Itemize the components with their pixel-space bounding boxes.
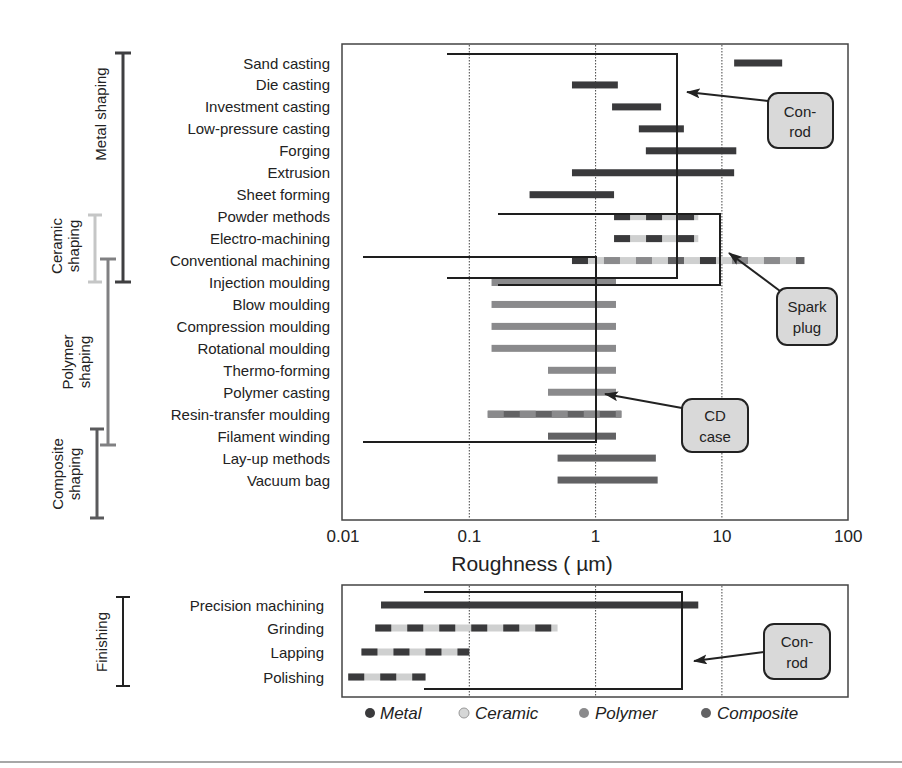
range-bar-segment — [584, 411, 600, 418]
category-label: Thermo-forming — [223, 362, 330, 379]
range-bar-segment — [439, 625, 455, 632]
range-bar-segment — [552, 411, 568, 418]
range-bar — [612, 103, 661, 110]
callout-spark-line2: plug — [793, 319, 821, 336]
category-label: Polishing — [263, 669, 324, 686]
range-bar-segment — [457, 649, 469, 656]
group-bracket-metal: Metal shaping — [92, 53, 131, 282]
range-bar-segment — [488, 411, 504, 418]
chart-root: Sand castingDie castingInvestment castin… — [0, 0, 902, 768]
range-bar-segment — [678, 235, 694, 242]
category-label: Powder methods — [217, 208, 330, 225]
chart-svg: Sand castingDie castingInvestment castin… — [0, 0, 902, 768]
group-label-composite-line2: shaping — [66, 448, 83, 501]
x-tick-labels: 0.010.1110100 — [326, 527, 862, 546]
range-bar-segment — [380, 674, 396, 681]
range-bar-segment — [471, 625, 487, 632]
callout-conrod-fin-line2: rod — [786, 654, 808, 671]
category-labels-finishing: Precision machiningGrindingLappingPolish… — [190, 597, 324, 686]
range-bar — [548, 367, 616, 374]
category-label: Sheet forming — [237, 186, 330, 203]
legend-label-composite: Composite — [717, 704, 798, 723]
group-label-ceramic-line2: shaping — [65, 220, 82, 273]
group-label-composite-line1: Composite — [49, 438, 66, 510]
legend-swatch-polymer — [579, 708, 589, 718]
x-tick-label: 0.01 — [326, 527, 359, 546]
range-bar — [530, 191, 614, 198]
range-bar — [558, 455, 656, 462]
legend: Metal Ceramic Polymer Composite — [365, 704, 798, 723]
range-bar-segment — [361, 649, 377, 656]
range-bar — [572, 169, 734, 176]
shaping-panel: Sand castingDie castingInvestment castin… — [48, 44, 862, 575]
category-label: Electro-machining — [210, 230, 330, 247]
category-label: Injection moulding — [209, 274, 330, 291]
category-label: Precision machining — [190, 597, 324, 614]
category-label: Forging — [279, 142, 330, 159]
range-bar-segment — [520, 411, 536, 418]
group-bracket-ceramic: Ceramic shaping — [48, 215, 102, 282]
range-bar-segment — [764, 257, 780, 264]
range-bar-segment — [604, 257, 620, 264]
callout-cd-line2: case — [699, 428, 731, 445]
category-label: Polymer casting — [223, 384, 330, 401]
range-bar-segment — [348, 674, 364, 681]
group-label-polymer-line2: shaping — [76, 336, 93, 389]
callout-conrod-fin-line1: Con- — [781, 633, 814, 650]
range-bar-segment — [393, 649, 409, 656]
category-label: Conventional machining — [170, 252, 330, 269]
x-tick-label: 0.1 — [457, 527, 481, 546]
legend-swatch-metal — [365, 708, 375, 718]
range-bar-segment — [616, 411, 622, 418]
range-bar-segment — [668, 257, 684, 264]
finishing-panel: Precision machiningGrindingLappingPolish… — [93, 585, 848, 723]
category-label: Extrusion — [267, 164, 330, 181]
category-label: Resin-transfer moulding — [171, 406, 330, 423]
legend-label-polymer: Polymer — [595, 704, 659, 723]
range-bar-segment — [614, 235, 630, 242]
group-label-metal: Metal shaping — [92, 67, 109, 160]
range-bar-segment — [636, 257, 652, 264]
category-label: Sand casting — [243, 55, 330, 72]
range-bar — [492, 323, 616, 330]
callout-conrod-line1: Con- — [784, 103, 817, 120]
legend-swatch-composite — [701, 708, 711, 718]
legend-label-metal: Metal — [380, 704, 423, 723]
category-label: Grinding — [267, 620, 324, 637]
range-bar — [361, 649, 469, 656]
legend-swatch-ceramic — [459, 708, 469, 718]
category-labels: Sand castingDie castingInvestment castin… — [170, 55, 330, 489]
callout-cd-line1: CD — [704, 407, 726, 424]
callout-conrod-line2: rod — [789, 123, 811, 140]
callout-spark-line1: Spark — [787, 298, 827, 315]
range-bar — [381, 602, 698, 609]
range-bar-segment — [572, 257, 588, 264]
category-label: Rotational moulding — [197, 340, 330, 357]
range-bar-segment — [407, 625, 423, 632]
category-label: Filament winding — [217, 428, 330, 445]
category-label: Investment casting — [205, 98, 330, 115]
range-bar — [492, 301, 616, 308]
range-bar — [558, 477, 658, 484]
range-bar — [375, 625, 557, 632]
legend-label-ceramic: Ceramic — [475, 704, 539, 723]
range-bar — [492, 345, 616, 352]
group-label-ceramic-line1: Ceramic — [48, 218, 65, 274]
category-label: Lapping — [271, 644, 324, 661]
range-bar-segment — [535, 625, 551, 632]
range-bar-segment — [503, 625, 519, 632]
group-bracket-composite: Composite shaping — [49, 429, 104, 518]
category-label: Blow moulding — [232, 296, 330, 313]
x-tick-label: 100 — [834, 527, 862, 546]
range-bar-segment — [700, 257, 716, 264]
range-bar-segment — [375, 625, 391, 632]
x-axis-label: Roughness ( µm) — [451, 552, 613, 575]
category-label: Lay-up methods — [222, 450, 330, 467]
range-bar-segment — [425, 649, 441, 656]
x-tick-label: 10 — [712, 527, 731, 546]
category-label: Compression moulding — [177, 318, 330, 335]
category-label: Die casting — [256, 76, 330, 93]
range-bar — [646, 147, 736, 154]
category-label: Low-pressure casting — [187, 120, 330, 137]
range-bar — [548, 433, 616, 440]
